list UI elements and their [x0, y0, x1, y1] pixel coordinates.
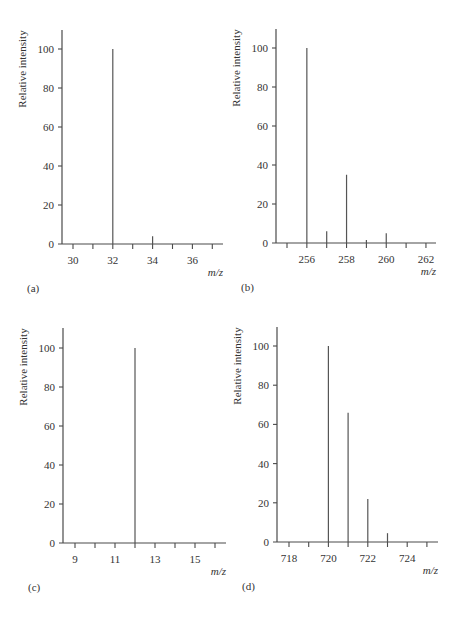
y-tick-label: 20	[258, 497, 270, 509]
x-tick-label: 722	[360, 552, 377, 564]
x-tick-label: 724	[399, 552, 416, 564]
mass-spectrum-d: 020406080100718720722724Relative intensi…	[0, 0, 462, 621]
chart-panel-d: 020406080100718720722724Relative intensi…	[0, 0, 231, 300]
y-tick-label: 100	[253, 340, 270, 352]
y-tick-label: 40	[258, 458, 270, 470]
panel-label: (d)	[242, 580, 255, 593]
y-tick-label: 80	[258, 379, 270, 391]
x-tick-label: 720	[320, 552, 337, 564]
x-axis-label: m/z	[423, 564, 439, 576]
y-tick-label: 0	[264, 536, 270, 548]
y-tick-label: 60	[258, 418, 270, 430]
y-axis-label: Relative intensity	[231, 327, 243, 405]
x-tick-label: 718	[281, 552, 298, 564]
